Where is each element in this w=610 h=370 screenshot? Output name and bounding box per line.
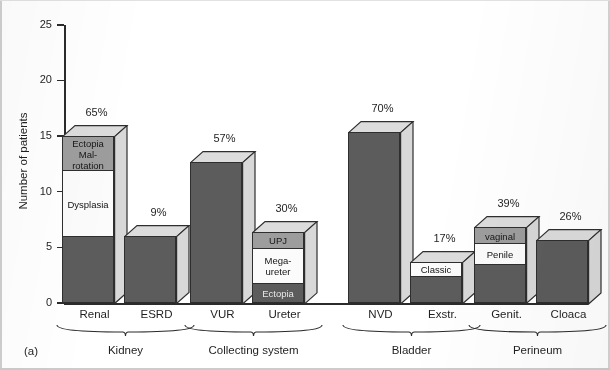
y-tick-label-0: 0 xyxy=(26,297,52,308)
group-label-collecting-system: Collecting system xyxy=(184,344,323,357)
bar-cloaca xyxy=(536,229,601,303)
y-tick-label-20: 20 xyxy=(26,74,52,85)
bar-segment-label: Dysplasia xyxy=(67,198,108,210)
bar-exstr-: Classic xyxy=(410,251,475,303)
bar-segment-label: Classic xyxy=(421,263,452,275)
bar-segment-upj: UPJ xyxy=(253,233,303,248)
panel-label: (a) xyxy=(24,345,38,357)
bar-front-face: Ectopia Mal- rotationDysplasia xyxy=(62,136,114,303)
bar-segment-classic: Classic xyxy=(411,263,461,276)
bar-segment xyxy=(125,237,175,302)
bar-nvd xyxy=(348,121,413,303)
bar-front-face: Classic xyxy=(410,262,462,303)
bar-segment-label: UPJ xyxy=(269,234,287,246)
scan-edge-top xyxy=(0,0,610,1)
chart-figure: Number of patients 0510152025 Ectopia Ma… xyxy=(0,0,610,370)
bar-side-face xyxy=(588,229,603,305)
group-label-kidney: Kidney xyxy=(56,344,195,357)
group-label-bladder: Bladder xyxy=(342,344,481,357)
y-tick-20 xyxy=(57,80,64,82)
percent-label-esrd: 9% xyxy=(126,207,191,218)
bar-segment-label: Ectopia Mal- rotation xyxy=(72,137,104,171)
y-tick-label-25: 25 xyxy=(26,19,52,30)
bar-side-face xyxy=(304,221,319,305)
y-axis-title: Number of patients xyxy=(17,91,29,231)
bar-front-face xyxy=(190,162,242,303)
bar-side-face xyxy=(176,225,191,305)
percent-label-ureter: 30% xyxy=(254,203,319,214)
percent-label-genit-: 39% xyxy=(476,198,541,209)
bar-segment-mega--ureter: Mega- ureter xyxy=(253,248,303,283)
bar-genit-: vaginalPenile xyxy=(474,216,539,303)
bar-segment-dysplasia: Dysplasia xyxy=(63,170,113,236)
bar-segment-vaginal: vaginal xyxy=(475,228,525,243)
bar-ureter: UPJMega- ureterEctopia xyxy=(252,221,317,303)
bar-front-face: UPJMega- ureterEctopia xyxy=(252,232,304,303)
bar-front-face xyxy=(124,236,176,303)
bar-segment-label: Ectopia xyxy=(262,287,294,299)
percent-label-exstr-: 17% xyxy=(412,233,477,244)
bar-front-face: vaginalPenile xyxy=(474,227,526,303)
bar-esrd xyxy=(124,225,189,303)
y-tick-label-10: 10 xyxy=(26,186,52,197)
bar-segment-ectopia: Ectopia xyxy=(253,283,303,302)
scan-edge-left xyxy=(0,0,2,370)
percent-label-renal: 65% xyxy=(64,107,129,118)
category-label-cloaca: Cloaca xyxy=(526,308,610,321)
group-brace-perineum xyxy=(468,324,607,336)
bar-front-face xyxy=(348,132,400,303)
group-label-perineum: Perineum xyxy=(468,344,607,357)
bar-segment-label: Penile xyxy=(487,248,513,260)
bar-segment-ectopia-mal--rotation: Ectopia Mal- rotation xyxy=(63,137,113,170)
bar-segment-label: Mega- ureter xyxy=(265,254,292,277)
bar-segment-penile: Penile xyxy=(475,243,525,264)
bar-segment xyxy=(537,241,587,302)
bar-segment-label: vaginal xyxy=(485,230,515,242)
bar-segment xyxy=(411,276,461,302)
bar-front-face xyxy=(536,240,588,303)
percent-label-cloaca: 26% xyxy=(538,211,603,222)
y-tick-25 xyxy=(57,24,64,26)
bar-renal: Ectopia Mal- rotationDysplasia xyxy=(62,125,127,303)
bar-vur xyxy=(190,151,255,303)
x-axis-line xyxy=(64,303,588,305)
bar-segment xyxy=(349,133,399,302)
percent-label-vur: 57% xyxy=(192,133,257,144)
y-tick-label-15: 15 xyxy=(26,130,52,141)
bar-segment xyxy=(63,236,113,302)
bar-segment xyxy=(475,264,525,302)
percent-label-nvd: 70% xyxy=(350,103,415,114)
bar-segment xyxy=(191,163,241,302)
group-brace-bladder xyxy=(342,324,481,336)
y-tick-label-5: 5 xyxy=(26,241,52,252)
category-label-ureter: Ureter xyxy=(242,308,327,321)
group-brace-kidney xyxy=(56,324,195,336)
group-brace-collecting-system xyxy=(184,324,323,336)
